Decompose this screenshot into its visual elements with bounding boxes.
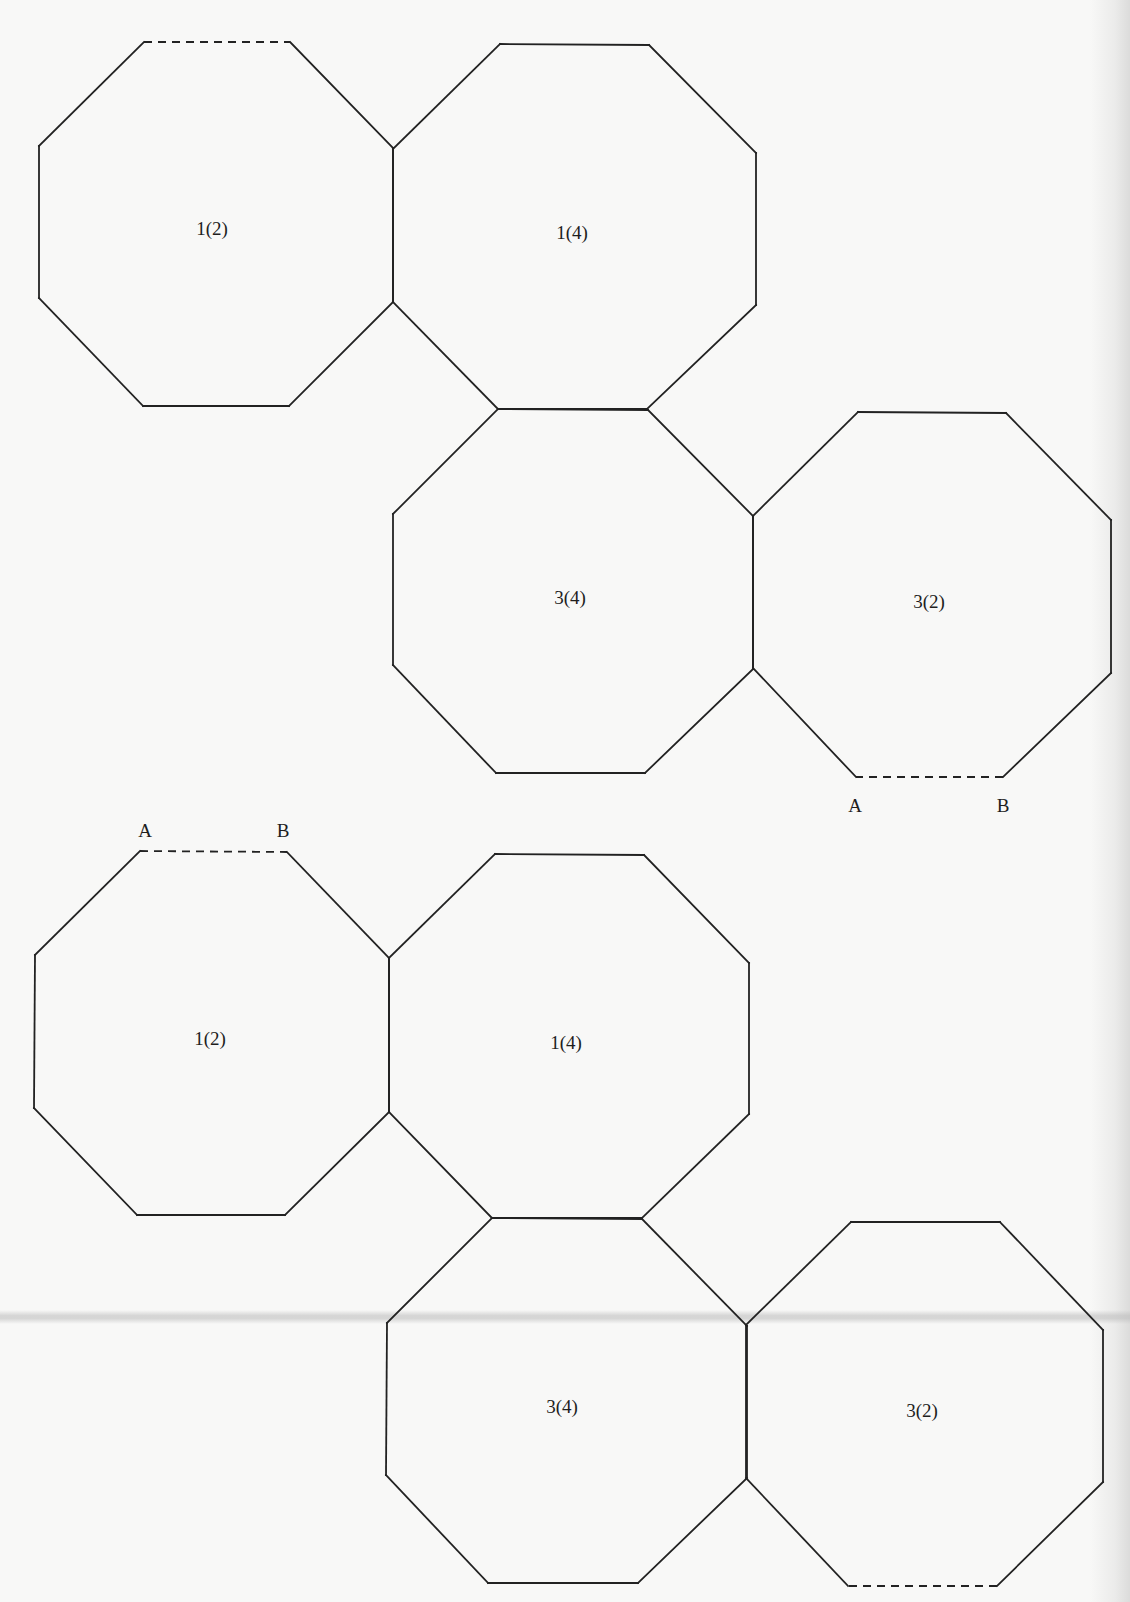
octagon-edge — [1006, 413, 1111, 520]
octagon-edge — [393, 44, 500, 149]
octagon-edge — [393, 409, 498, 514]
octagon-edge — [753, 668, 856, 777]
octagon-edge — [393, 302, 498, 409]
octagon-edge — [492, 1218, 642, 1219]
octagon-edge — [746, 1222, 851, 1325]
octagon-edge — [753, 412, 858, 516]
octagon-edge — [34, 1108, 137, 1215]
vertex-label-bottom-b: B — [277, 821, 290, 840]
octagon-edge — [500, 44, 649, 45]
octagon-edge — [1000, 1222, 1103, 1330]
face-label-top-3-2: 3(2) — [913, 592, 945, 611]
octagon-edge — [495, 854, 644, 855]
octagon-edge — [287, 852, 389, 958]
octagon-edge — [997, 1482, 1103, 1586]
octagon-edge — [1003, 673, 1111, 777]
vertex-label-top-b: B — [997, 796, 1010, 815]
octagon-edge — [858, 412, 1006, 413]
octagon-edge — [387, 1218, 492, 1323]
face-label-bottom-1-4: 1(4) — [550, 1033, 582, 1052]
octagon-edge — [644, 855, 749, 963]
octagon-edge — [393, 665, 496, 773]
octagon-edge — [746, 1478, 848, 1586]
octagon-edge — [642, 1114, 749, 1218]
vertex-label-bottom-a: A — [138, 821, 152, 840]
octagon-edge — [35, 851, 140, 955]
octagon-edge — [290, 42, 393, 148]
octagon-edge — [645, 669, 753, 773]
vertex-label-top-a: A — [848, 796, 862, 815]
face-label-bottom-3-2: 3(2) — [906, 1401, 938, 1420]
octagon-edge — [498, 409, 648, 410]
octagon-edge — [285, 1112, 389, 1215]
octagon-edge — [648, 410, 753, 516]
octagon-edge — [39, 42, 144, 146]
octagon-edge — [647, 305, 756, 409]
octagon-edge — [649, 45, 756, 153]
face-label-bottom-3-4: 3(4) — [546, 1397, 578, 1416]
face-label-bottom-1-2: 1(2) — [194, 1029, 226, 1048]
face-label-top-3-4: 3(4) — [554, 588, 586, 607]
octagon-edge — [638, 1478, 747, 1583]
octagon-edge — [642, 1219, 747, 1326]
net-top — [39, 42, 1111, 777]
dashed-glue-edge — [140, 851, 287, 852]
face-label-top-1-4: 1(4) — [556, 223, 588, 242]
octagon-edge — [289, 302, 393, 406]
octagon-edge — [386, 1323, 387, 1475]
scanned-page: 1(2) 1(4) 3(4) 3(2) A B 1(2) 1(4) 3(4) 3… — [0, 0, 1130, 1602]
octagon-edge — [389, 854, 495, 958]
face-label-top-1-2: 1(2) — [196, 219, 228, 238]
net-bottom — [34, 851, 1103, 1586]
octagon-edge — [34, 955, 35, 1108]
octagon-edge — [39, 298, 143, 406]
octagon-edge — [389, 1112, 492, 1218]
octagon-edge — [386, 1475, 488, 1583]
